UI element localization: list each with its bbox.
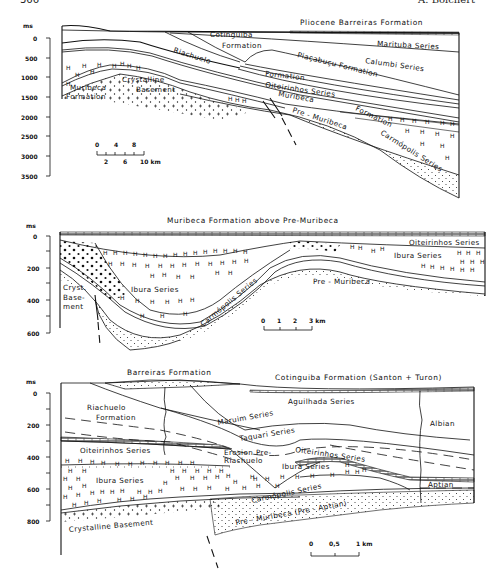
svg-text:H: H	[256, 482, 261, 489]
svg-text:H: H	[345, 461, 350, 468]
svg-text:H: H	[193, 485, 198, 492]
svg-text:Aptian: Aptian	[428, 480, 454, 489]
svg-text:Formation: Formation	[222, 41, 262, 50]
svg-text:H: H	[193, 249, 198, 256]
svg-text:H: H	[450, 265, 455, 272]
svg-text:H: H	[195, 467, 200, 474]
section-2-title: Muribeca Formation above Pre-Muribeca	[167, 216, 339, 225]
svg-text:H: H	[72, 501, 77, 508]
svg-text:200: 200	[27, 422, 40, 429]
svg-text:Basement: Basement	[136, 85, 176, 94]
svg-text:H: H	[457, 249, 462, 256]
svg-text:H: H	[232, 258, 237, 265]
svg-text:400: 400	[27, 297, 40, 304]
svg-text:H: H	[405, 127, 410, 134]
svg-text:H: H	[425, 118, 430, 125]
svg-text:4: 4	[114, 141, 118, 148]
svg-text:H: H	[355, 468, 360, 475]
section-1-title: Pliocene Barreiras Formation	[300, 18, 423, 27]
svg-text:H: H	[350, 243, 355, 250]
svg-text:500: 500	[25, 55, 38, 62]
svg-text:H: H	[178, 297, 183, 304]
svg-text:H: H	[103, 249, 108, 256]
svg-text:Taquari Series: Taquari Series	[238, 425, 296, 443]
svg-text:H: H	[165, 459, 170, 466]
svg-text:H: H	[178, 459, 183, 466]
svg-text:Ibura Series: Ibura Series	[282, 462, 330, 471]
svg-text:H: H	[162, 271, 167, 278]
svg-text:H: H	[170, 262, 175, 269]
svg-text:H: H	[82, 62, 87, 69]
svg-text:H: H	[213, 247, 218, 254]
svg-text:H: H	[445, 154, 450, 161]
svg-text:H: H	[225, 485, 230, 492]
svg-text:H: H	[215, 269, 220, 276]
svg-text:ms: ms	[26, 378, 36, 385]
svg-text:H: H	[117, 496, 122, 503]
svg-text:H: H	[450, 120, 455, 127]
svg-text:3 km: 3 km	[309, 317, 326, 324]
section-1-scale-bar: 0 4 8 2 6 10 km	[95, 141, 161, 165]
svg-text:1500: 1500	[21, 94, 38, 101]
svg-text:H: H	[362, 466, 367, 473]
svg-text:H: H	[82, 482, 87, 489]
svg-text:H: H	[160, 312, 165, 319]
svg-text:H: H	[207, 467, 212, 474]
svg-text:H: H	[82, 467, 87, 474]
svg-text:0: 0	[309, 540, 313, 547]
svg-text:H: H	[123, 249, 128, 256]
svg-text:1 km: 1 km	[356, 540, 373, 547]
svg-text:H: H	[110, 488, 115, 495]
svg-text:H: H	[371, 247, 376, 254]
svg-text:H: H	[244, 257, 249, 264]
svg-text:H: H	[233, 478, 238, 485]
svg-text:0: 0	[95, 141, 99, 148]
svg-text:H: H	[183, 250, 188, 257]
svg-text:H: H	[153, 252, 158, 259]
svg-text:0: 0	[33, 35, 37, 42]
svg-text:H: H	[65, 457, 70, 464]
svg-text:H: H	[165, 298, 170, 305]
svg-text:H: H	[220, 259, 225, 266]
svg-text:0: 0	[261, 317, 265, 324]
section-3-title-right: Cotinguiba Formation (Santon + Turon)	[275, 373, 442, 382]
svg-text:H: H	[295, 473, 300, 480]
svg-text:H: H	[358, 244, 363, 251]
svg-text:1000: 1000	[21, 74, 38, 81]
svg-text:800: 800	[27, 518, 40, 525]
svg-text:H: H	[175, 474, 180, 481]
svg-text:H: H	[180, 485, 185, 492]
svg-text:Marituba Series: Marituba Series	[377, 39, 440, 51]
svg-text:H: H	[120, 60, 125, 67]
svg-text:H: H	[90, 489, 95, 496]
svg-text:H: H	[101, 459, 106, 466]
svg-text:ment: ment	[63, 302, 83, 311]
svg-text:H: H	[97, 497, 102, 504]
svg-text:H: H	[136, 64, 141, 71]
svg-text:H: H	[182, 261, 187, 268]
svg-text:H: H	[63, 493, 68, 500]
svg-text:H: H	[66, 64, 71, 71]
svg-text:Oiteirinhos Series: Oiteirinhos Series	[409, 238, 480, 247]
svg-text:H: H	[460, 258, 465, 265]
svg-text:H: H	[140, 459, 145, 466]
svg-text:H: H	[170, 467, 175, 474]
svg-text:H: H	[190, 474, 195, 481]
svg-text:H: H	[176, 273, 181, 280]
svg-text:H: H	[153, 459, 158, 466]
svg-text:H: H	[182, 467, 187, 474]
svg-text:H: H	[280, 473, 285, 480]
svg-text:H: H	[135, 297, 140, 304]
axis-unit: ms	[23, 22, 33, 29]
svg-text:H: H	[310, 472, 315, 479]
svg-text:H: H	[190, 459, 195, 466]
svg-text:Cryst.: Cryst.	[63, 283, 86, 292]
svg-text:H: H	[68, 484, 73, 491]
svg-text:H: H	[223, 247, 228, 254]
svg-text:H: H	[203, 474, 208, 481]
svg-text:H: H	[226, 472, 231, 479]
svg-text:H: H	[242, 484, 247, 491]
svg-text:H: H	[143, 251, 148, 258]
section-3-cross-section: Barreiras Formation Cotinguiba Formation…	[26, 368, 474, 568]
svg-text:H: H	[440, 119, 445, 126]
